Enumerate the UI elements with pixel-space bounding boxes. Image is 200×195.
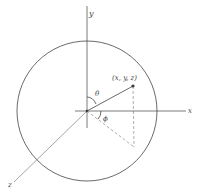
y-axis-label: y: [88, 9, 94, 18]
projection-line: [87, 111, 134, 147]
phi-arc: [98, 111, 101, 119]
z-axis-label: z: [7, 181, 12, 189]
point-label: (x, y, z): [112, 74, 137, 82]
theta-arc: [87, 97, 96, 104]
spherical-coordinates-diagram: y x z (x, y, z) θ ϕ: [0, 0, 200, 195]
diagram-canvas: y x z (x, y, z) θ ϕ: [0, 0, 200, 195]
z-axis: [14, 111, 87, 182]
x-axis-label: x: [188, 107, 192, 115]
vertical-drop-line: [133, 86, 134, 147]
radius-vector: [87, 86, 133, 111]
phi-label: ϕ: [103, 115, 108, 123]
theta-label: θ: [95, 90, 100, 98]
